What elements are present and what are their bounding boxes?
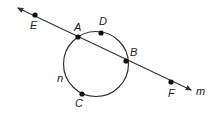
point-label-a: A xyxy=(73,21,81,33)
points-group: EADBFC xyxy=(30,12,176,109)
circle-n xyxy=(64,32,129,97)
point-e xyxy=(32,12,37,17)
point-label-b: B xyxy=(130,46,137,58)
point-c xyxy=(79,91,84,96)
point-a xyxy=(75,34,80,39)
point-label-c: C xyxy=(75,97,83,109)
line-label-m: m xyxy=(196,85,205,97)
point-label-e: E xyxy=(30,19,38,31)
point-label-f: F xyxy=(168,87,176,99)
circle-label-n: n xyxy=(57,72,63,84)
point-f xyxy=(168,79,173,84)
circle-secant-diagram: EADBFC n m xyxy=(0,0,216,116)
point-d xyxy=(98,30,103,35)
point-b xyxy=(123,58,128,63)
point-label-d: D xyxy=(99,15,107,27)
